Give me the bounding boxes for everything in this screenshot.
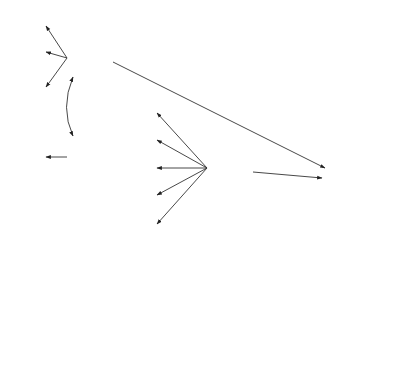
edge-stra-ls2 — [157, 140, 207, 168]
edge-apt-field-correlation — [67, 77, 74, 136]
edge-apt-ach — [113, 62, 325, 168]
edges — [46, 26, 368, 224]
sem-diagram — [0, 0, 407, 383]
edge-stra-ls5 — [157, 168, 207, 195]
edge-stra-ls6 — [157, 168, 207, 224]
edge-apt-pa — [46, 58, 67, 87]
edge-stra-ach — [253, 172, 322, 178]
edge-ach-thm-stub — [365, 129, 368, 180]
edge-stra-ls1 — [157, 113, 207, 168]
